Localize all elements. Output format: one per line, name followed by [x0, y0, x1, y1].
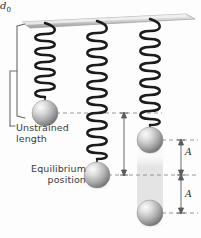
equilibrium-position-label: Equilibriumposition: [6, 163, 86, 185]
ball-equilibrium: [84, 162, 110, 188]
equilibrium-position-line1: Equilibrium: [31, 163, 86, 174]
amplitude-lower-label: A: [185, 188, 192, 199]
measure-amplitude-lower: [177, 174, 185, 214]
ball-oscillating-top: [137, 127, 163, 153]
unstrained-length-line1: Unstrained: [16, 122, 69, 133]
spring-oscillation-diagram: Unstrainedlength Equilibriumposition d0 …: [0, 0, 201, 238]
spring-unstrained: [35, 23, 55, 103]
ball-oscillating-bottom: [137, 200, 163, 226]
unstrained-length-bracket: [10, 24, 25, 126]
unstrained-length-label: Unstrainedlength: [16, 122, 94, 144]
equilibrium-position-line2: position: [48, 174, 86, 185]
support-ceiling: [22, 14, 195, 28]
diagram-canvas: [0, 0, 201, 238]
measure-amplitude-upper: [177, 139, 185, 176]
measure-d0: [120, 112, 128, 176]
unstrained-length-line2: length: [16, 133, 47, 144]
amplitude-upper-label: A: [185, 146, 192, 157]
